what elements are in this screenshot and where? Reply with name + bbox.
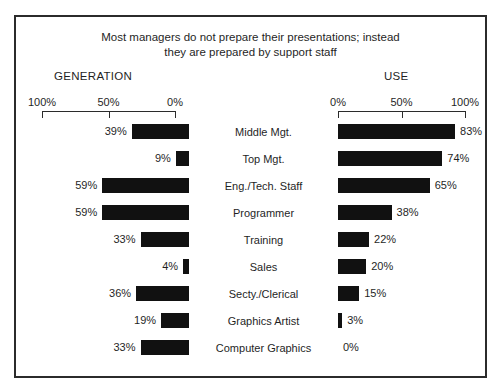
chart-row: 59%Eng./Tech. Staff65% <box>16 172 485 199</box>
generation-axis-tick-2 <box>175 111 176 118</box>
use-value-label: 3% <box>347 313 363 328</box>
chart-row: 33%Computer Graphics0% <box>16 334 485 361</box>
chart-title-line-1: Most managers do not prepare their prese… <box>16 30 485 45</box>
generation-bar-cell: 33% <box>42 334 189 361</box>
generation-bar-cell: 4% <box>42 253 189 280</box>
category-label-cell: Graphics Artist <box>189 307 338 334</box>
chart-row: 33%Training22% <box>16 226 485 253</box>
generation-axis-tick-label-2: 0% <box>167 96 183 108</box>
category-label: Training <box>244 234 283 246</box>
use-value-label: 74% <box>447 151 469 166</box>
category-label: Secty./Clerical <box>229 288 298 300</box>
use-value-label: 38% <box>397 205 419 220</box>
use-bar <box>338 313 342 328</box>
chart-title-line-2: they are prepared by support staff <box>16 45 485 60</box>
category-label-cell: Top Mgt. <box>189 145 338 172</box>
category-label: Middle Mgt. <box>235 126 292 138</box>
use-bar-cell: 38% <box>338 199 479 226</box>
use-bar-cell: 3% <box>338 307 479 334</box>
category-label: Programmer <box>233 207 294 219</box>
generation-bar-cell: 59% <box>42 172 189 199</box>
use-axis-tick-0 <box>338 111 339 118</box>
x-axis-use: 0%50%100% <box>324 96 477 120</box>
category-label: Top Mgt. <box>242 153 284 165</box>
generation-value-label: 33% <box>113 340 135 355</box>
use-bar-cell: 0% <box>338 334 479 361</box>
category-label-cell: Secty./Clerical <box>189 280 338 307</box>
x-axis-generation: 100%50%0% <box>28 96 187 120</box>
generation-bar <box>176 151 189 166</box>
generation-bar <box>132 124 189 139</box>
x-axis-use-ticklabels: 0%50%100% <box>324 96 477 109</box>
use-bar-cell: 83% <box>338 118 479 145</box>
generation-value-label: 9% <box>155 151 171 166</box>
use-bar <box>338 151 442 166</box>
generation-bar-cell: 33% <box>42 226 189 253</box>
use-bar <box>338 232 369 247</box>
generation-bar <box>136 286 189 301</box>
use-bar <box>338 178 430 193</box>
generation-value-label: 4% <box>162 259 178 274</box>
chart-row: 59%Programmer38% <box>16 199 485 226</box>
chart-frame: Most managers do not prepare their prese… <box>14 15 487 378</box>
use-bar-cell: 20% <box>338 253 479 280</box>
chart-title: Most managers do not prepare their prese… <box>16 30 485 60</box>
use-bar-cell: 22% <box>338 226 479 253</box>
generation-bar <box>102 178 189 193</box>
generation-bar <box>102 205 189 220</box>
use-value-label: 20% <box>371 259 393 274</box>
generation-axis-tick-1 <box>109 111 110 118</box>
category-label-cell: Training <box>189 226 338 253</box>
panel-heading-generation: GENERATION <box>54 70 132 82</box>
chart-row: 39%Middle Mgt.83% <box>16 118 485 145</box>
use-bar-cell: 15% <box>338 280 479 307</box>
category-label: Sales <box>250 261 278 273</box>
generation-bar <box>141 232 190 247</box>
use-bar-cell: 74% <box>338 145 479 172</box>
generation-value-label: 59% <box>75 205 97 220</box>
use-axis-tick-label-1: 50% <box>390 96 412 108</box>
category-label-cell: Computer Graphics <box>189 334 338 361</box>
use-axis-tick-2 <box>465 111 466 118</box>
use-bar <box>338 259 366 274</box>
use-axis-tick-1 <box>402 111 403 118</box>
category-label: Eng./Tech. Staff <box>225 180 302 192</box>
chart-row: 9%Top Mgt.74% <box>16 145 485 172</box>
generation-bar-cell: 39% <box>42 118 189 145</box>
generation-bar-cell: 19% <box>42 307 189 334</box>
use-bar <box>338 205 392 220</box>
use-value-label: 15% <box>364 286 386 301</box>
generation-axis-tick-label-1: 50% <box>97 96 119 108</box>
category-label: Computer Graphics <box>216 342 311 354</box>
generation-bar <box>161 313 189 328</box>
generation-bar-cell: 36% <box>42 280 189 307</box>
generation-axis-tick-0 <box>42 111 43 118</box>
generation-axis-tick-label-0: 100% <box>28 96 56 108</box>
category-label-cell: Programmer <box>189 199 338 226</box>
plot-area: 39%Middle Mgt.83%9%Top Mgt.74%59%Eng./Te… <box>16 118 485 361</box>
use-bar-cell: 65% <box>338 172 479 199</box>
generation-value-label: 33% <box>113 232 135 247</box>
chart-row: 36%Secty./Clerical15% <box>16 280 485 307</box>
use-value-label: 0% <box>343 340 359 355</box>
generation-bar <box>141 340 190 355</box>
use-value-label: 22% <box>374 232 396 247</box>
panel-heading-use: USE <box>384 70 409 82</box>
use-value-label: 65% <box>435 178 457 193</box>
category-label-cell: Sales <box>189 253 338 280</box>
chart-row: 19%Graphics Artist3% <box>16 307 485 334</box>
use-axis-tick-label-0: 0% <box>330 96 346 108</box>
x-axis-generation-ticklabels: 100%50%0% <box>28 96 187 109</box>
generation-bar-cell: 59% <box>42 199 189 226</box>
category-label-cell: Eng./Tech. Staff <box>189 172 338 199</box>
use-value-label: 83% <box>460 124 482 139</box>
category-label: Graphics Artist <box>228 315 300 327</box>
generation-value-label: 59% <box>75 178 97 193</box>
category-label-cell: Middle Mgt. <box>189 118 338 145</box>
generation-value-label: 39% <box>105 124 127 139</box>
chart-row: 4%Sales20% <box>16 253 485 280</box>
generation-value-label: 19% <box>134 313 156 328</box>
use-bar <box>338 124 455 139</box>
use-axis-tick-label-2: 100% <box>451 96 479 108</box>
generation-value-label: 36% <box>109 286 131 301</box>
